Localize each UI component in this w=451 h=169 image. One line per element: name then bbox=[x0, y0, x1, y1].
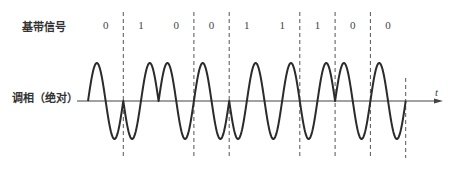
psk-diagram: 基带信号 调相（绝对） t 010011100 bbox=[0, 0, 451, 169]
waveform-plot bbox=[0, 0, 451, 169]
axis-arrow-icon bbox=[434, 99, 443, 104]
